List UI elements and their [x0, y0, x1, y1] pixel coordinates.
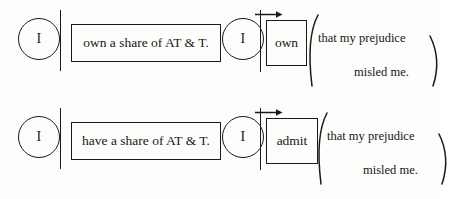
reduced-predicate-label-row2: admit	[271, 134, 314, 149]
subject-circle-row2: I	[18, 116, 60, 158]
complement-line-1-row2: that my prejudice	[327, 129, 414, 143]
predicate-box-row1: own a share of AT & T.	[71, 24, 221, 62]
predicate-box-row2: have a share of AT & T.	[71, 122, 221, 160]
complement-line-1-row1: that my prejudice	[318, 31, 405, 45]
complement-clause-row1: that my prejudice misled me.	[305, 14, 444, 88]
complement-line-2-row2: misled me.	[363, 163, 418, 177]
complement-line-2-row1: misled me.	[354, 65, 409, 79]
reduced-predicate-box-row2: admit	[266, 118, 318, 164]
reduced-subject-label-row2: I	[240, 130, 245, 144]
predicate-label-row2: have a share of AT & T.	[76, 134, 216, 149]
subject-label-row1: I	[36, 32, 41, 46]
reduced-predicate-box-row1: own	[266, 20, 307, 66]
left-parenthesis-icon-row1	[305, 14, 321, 88]
reduced-predicate-label-row1: own	[269, 36, 304, 51]
diagram-row-2: I have a share of AT & T. I admit that m…	[0, 100, 439, 195]
predicate-label-row1: own a share of AT & T.	[77, 36, 215, 51]
subject-label-row2: I	[36, 130, 41, 144]
vertical-divider-icon-row1	[60, 10, 61, 71]
left-parenthesis-icon-row2	[314, 112, 330, 186]
complement-clause-row2: that my prejudice misled me.	[314, 112, 451, 186]
subject-circle-row1: I	[18, 18, 60, 60]
right-parenthesis-icon-row1	[427, 14, 443, 88]
reduced-subject-label-row1: I	[240, 32, 245, 46]
right-parenthesis-icon-row2	[436, 112, 451, 186]
vertical-divider-icon-row2	[60, 108, 61, 169]
diagram-row-1: I own a share of AT & T. I own that my p…	[0, 2, 439, 97]
